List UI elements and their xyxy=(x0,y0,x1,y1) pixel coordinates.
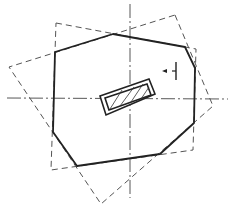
section-marker xyxy=(162,62,176,80)
center-part xyxy=(100,79,155,115)
arrow-head-icon xyxy=(162,69,167,73)
technical-drawing xyxy=(0,0,231,212)
